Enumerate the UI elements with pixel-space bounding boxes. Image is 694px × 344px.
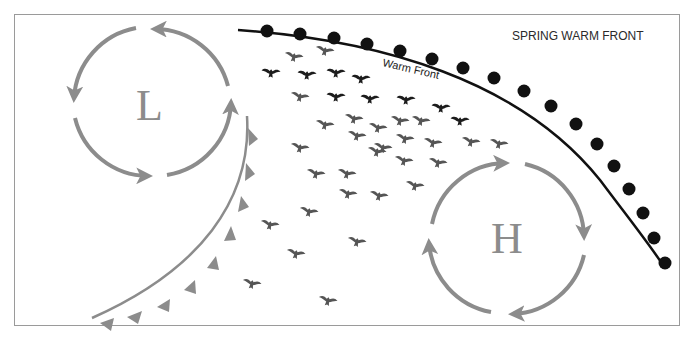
bird-icon [461,136,481,148]
bird-icon [318,295,338,307]
cold-front-line [92,116,247,318]
bird-icon [315,119,335,131]
bird-icon [326,92,346,102]
bird-icon [344,113,364,125]
diagram-title: SPRING WARM FRONT [512,29,644,43]
bird-icon [450,116,470,126]
bird-flock [242,45,509,307]
low-arrow-upper-right [155,29,228,86]
bird-icon [337,168,357,180]
bird-icon [351,74,371,84]
bird-icon [396,95,416,105]
bird-icon [347,130,367,142]
bird-icon [368,122,388,134]
bird-icon [428,157,448,169]
bird-icon [315,45,335,57]
bird-icon [394,155,414,167]
bird-icon [347,236,367,248]
bird-icon [242,278,262,290]
high-pressure-label: H [491,214,523,263]
low-arrow-upper-left [74,28,136,98]
bird-icon [338,188,358,200]
bird-icon [261,68,281,78]
low-arrow-lower-right [167,103,231,175]
bird-icon [489,138,509,150]
bird-icon [369,190,389,202]
high-arrow-lower-left [429,243,491,312]
high-arrow-lower-right [513,255,584,314]
bird-icon [390,115,410,127]
bird-icon [411,115,431,127]
cold-front [92,116,258,331]
bird-icon [423,137,443,149]
bird-icon [431,103,451,113]
bird-icon [290,142,310,154]
high-arrow-upper-right [525,164,584,236]
bird-icon [299,206,319,218]
bird-icon [405,180,425,192]
weather-diagram: SPRING WARM FRONT L H [0,0,694,344]
warm-front-semicircles [261,25,672,270]
bird-icon [360,94,380,104]
bird-icon [290,91,310,103]
bird-icon [260,219,280,231]
bird-icon [306,168,326,180]
bird-icon [286,248,306,260]
bird-icon [297,70,317,80]
bird-icon [326,68,346,78]
bird-icon [284,51,304,63]
cold-front-triangles [100,128,258,331]
bird-icon [395,133,415,145]
low-pressure-label: L [136,81,163,130]
